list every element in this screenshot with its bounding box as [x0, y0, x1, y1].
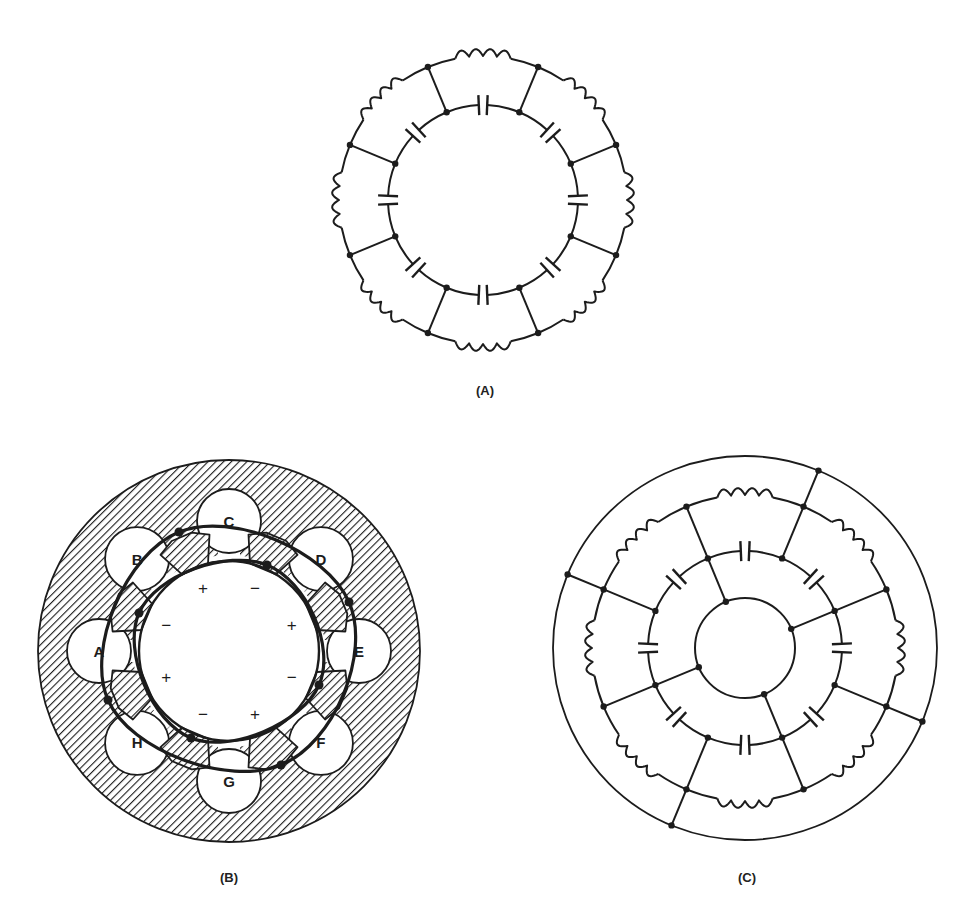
inductor-icon: [832, 520, 873, 561]
plus-sign: +: [198, 579, 208, 598]
ring-wire: [749, 738, 782, 745]
junction-dot: [564, 571, 570, 577]
ring-wire: [571, 164, 578, 196]
ring-wire: [679, 558, 707, 576]
spoke-wire: [571, 145, 616, 164]
junction-dot: [613, 252, 619, 258]
spoke-wire: [568, 575, 604, 590]
junction-dot: [723, 599, 729, 605]
inductor-icon: [361, 78, 402, 119]
spoke-wire: [686, 507, 707, 559]
strap-junction-dot: [135, 609, 144, 618]
spoke-wire: [672, 789, 687, 825]
inductor-icon: [717, 798, 772, 807]
spoke-wire: [708, 558, 726, 601]
cavity-label-d: D: [316, 551, 327, 568]
ring-wire: [342, 228, 350, 255]
spoke-wire: [782, 507, 803, 559]
capacitor-plate-icon: [487, 95, 488, 115]
inductor-icon: [585, 620, 594, 675]
ring-wire: [604, 707, 619, 735]
junction-dot: [683, 503, 689, 509]
ring-wire: [871, 707, 886, 735]
ring-wire: [603, 255, 617, 280]
inductor-icon: [617, 520, 658, 561]
capacitor-plate-icon: [478, 95, 479, 115]
capacitor-plate-icon: [638, 652, 658, 653]
junction-dot: [443, 285, 449, 291]
junction-dot: [535, 330, 541, 336]
ring-wire: [428, 59, 455, 67]
capacitor-plate-icon: [568, 204, 588, 205]
ring-wire: [804, 774, 832, 789]
spoke-wire: [519, 288, 538, 333]
ring-wire: [782, 558, 810, 576]
ring-wire: [616, 145, 624, 172]
minus-sign: −: [161, 616, 171, 635]
inductor-icon: [332, 172, 342, 227]
figure-a-caption: (A): [476, 383, 494, 398]
ring-wire: [447, 288, 479, 295]
ring-wire: [648, 652, 655, 685]
ring-wire: [419, 112, 447, 130]
ring-wire: [816, 582, 834, 610]
ring-wire: [553, 236, 571, 264]
junction-dot: [668, 822, 674, 828]
junction-dot: [535, 64, 541, 70]
ring-wire: [428, 333, 455, 341]
junction-dot: [613, 142, 619, 148]
junction-dot: [568, 160, 574, 166]
figure-b-magnetron-cross-section: CDEFGHAB+−+−+−+−: [38, 460, 420, 842]
ring-wire: [519, 270, 547, 288]
capacitor-plate-icon: [740, 735, 741, 755]
figure-c-caption: (C): [738, 870, 756, 885]
junction-dot: [779, 555, 785, 561]
ring-wire: [686, 789, 717, 798]
cavity-label-h: H: [132, 734, 143, 751]
junction-dot: [788, 626, 794, 632]
strap-junction-dot: [315, 681, 324, 690]
spoke-wire: [655, 667, 698, 685]
capacitor-plate-icon: [832, 643, 852, 644]
ring-wire: [350, 120, 364, 145]
inductor-icon: [624, 172, 634, 227]
ring-wire: [388, 164, 395, 196]
cavity-label-b: B: [132, 551, 143, 568]
ring-wire: [519, 112, 547, 130]
spoke-wire: [571, 236, 616, 255]
inductor-icon: [361, 280, 402, 321]
strap-junction-dot: [104, 696, 113, 705]
ring-wire: [648, 611, 655, 644]
ring-wire: [553, 136, 571, 164]
cavity-label-f: F: [316, 734, 325, 751]
junction-dot: [392, 160, 398, 166]
junction-dot: [347, 142, 353, 148]
spoke-wire: [519, 67, 538, 112]
inductor-icon: [563, 280, 604, 321]
inductor-icon: [563, 78, 604, 119]
ring-wire: [708, 551, 741, 558]
inductor-icon: [895, 620, 904, 675]
ring-wire: [655, 582, 673, 610]
capacitor-plate-icon: [478, 285, 479, 305]
junction-dot: [761, 691, 767, 697]
cavity-label-g: G: [223, 773, 235, 790]
bore-fill: [133, 555, 325, 747]
ring-wire: [686, 498, 717, 507]
ring-wire: [655, 685, 673, 713]
plus-sign: +: [287, 616, 297, 635]
inductor-icon: [617, 735, 658, 776]
cavity-label-c: C: [224, 513, 235, 530]
junction-dot: [800, 786, 806, 792]
ring-wire: [773, 789, 804, 798]
figure-c-strapped-ladder-ring: [553, 456, 937, 840]
capacitor-plate-icon: [638, 643, 658, 644]
spoke-wire: [804, 471, 819, 507]
junction-dot: [392, 233, 398, 239]
capacitor-plate-icon: [749, 541, 750, 561]
junction-dot: [705, 734, 711, 740]
ring-wire: [804, 507, 832, 522]
ring-wire: [487, 288, 519, 295]
ring-wire: [886, 589, 895, 620]
ring-wire: [395, 136, 413, 164]
